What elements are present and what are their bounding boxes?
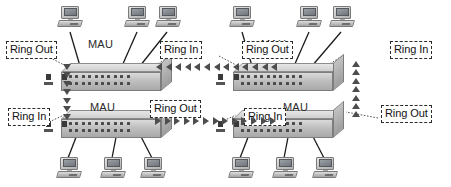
mau-port-row-lower — [69, 129, 130, 132]
ring-arrow-right — [165, 117, 171, 125]
mau-port-row-lower — [69, 82, 130, 85]
monitor-screen — [64, 8, 77, 16]
workstation-icon — [100, 157, 126, 181]
mau-status-led — [216, 129, 225, 132]
monitor-screen — [236, 8, 249, 16]
ring-arrow-left — [156, 63, 162, 71]
monitor-screen — [131, 8, 144, 16]
ring-arrow-right — [193, 117, 199, 125]
label-ring-in-bottom-left: Ring In — [8, 108, 50, 126]
label-ring-out-top-right: Ring Out — [242, 41, 293, 59]
workstation-icon — [228, 157, 254, 181]
monitor-screen — [303, 8, 316, 16]
disk-drive — [241, 174, 250, 176]
mau-title-bottom-right: MAU — [283, 101, 308, 113]
mau-ring-in-port[interactable] — [46, 74, 51, 80]
ring-link-top — [156, 63, 277, 71]
ring-arrow-right — [261, 117, 267, 125]
workstation-icon — [140, 157, 166, 181]
mau-status-led — [44, 129, 53, 132]
ring-arrow-left — [204, 63, 210, 71]
monitor-screen — [235, 159, 248, 167]
workstation-icon — [155, 6, 181, 30]
ring-arrow-left — [242, 63, 248, 71]
workstation-icon — [124, 6, 150, 30]
mau-ring-in-port[interactable] — [62, 121, 67, 127]
mau-side-face — [161, 54, 172, 91]
ring-arrow-up — [352, 69, 360, 75]
ring-arrow-right — [184, 117, 190, 125]
ring-arrow-right — [270, 117, 276, 125]
ring-arrow-up — [352, 61, 360, 67]
ring-arrow-up — [352, 78, 360, 84]
mau-port-row-upper — [69, 75, 130, 78]
label-ring-out-bottom-left: Ring Out — [150, 100, 201, 118]
workstation-icon — [312, 157, 338, 181]
monitor-screen — [336, 8, 349, 16]
mau-side-face — [333, 101, 344, 138]
workstation-icon — [272, 157, 298, 181]
mau-ring-in-port[interactable] — [218, 74, 223, 80]
monitor-screen — [147, 159, 160, 167]
ring-link-left — [63, 64, 71, 120]
workstation-icon — [296, 6, 322, 30]
label-ring-out-top-left: Ring Out — [6, 41, 57, 59]
ring-arrow-down — [63, 72, 71, 78]
ring-arrow-down — [63, 98, 71, 104]
ring-arrow-right — [213, 117, 219, 125]
mau-ring-out-port[interactable] — [234, 74, 239, 80]
workstation-icon — [329, 6, 355, 30]
ring-arrow-right — [222, 117, 228, 125]
disk-drive — [309, 23, 318, 25]
ring-arrow-right — [174, 117, 180, 125]
ring-arrow-left — [214, 63, 220, 71]
ring-arrow-left — [223, 63, 229, 71]
ring-arrow-down — [63, 81, 71, 87]
disk-drive — [342, 23, 351, 25]
monitor-screen — [162, 8, 175, 16]
disk-drive — [153, 174, 162, 176]
mau-title-top-left: MAU — [88, 38, 113, 50]
mau-port-row-upper — [69, 122, 130, 125]
ring-arrow-down — [63, 114, 71, 120]
ring-arrow-up — [352, 95, 360, 101]
mau-top-face — [61, 63, 170, 72]
mau-port-row-upper — [241, 75, 302, 78]
mau-status-led — [216, 82, 225, 85]
disk-drive — [285, 174, 294, 176]
ring-arrow-left — [262, 63, 268, 71]
ring-arrow-left — [233, 63, 239, 71]
disk-drive — [69, 174, 78, 176]
ring-arrow-right — [241, 117, 247, 125]
mau-side-face — [333, 54, 344, 91]
disk-drive — [325, 174, 334, 176]
workstation-icon — [56, 157, 82, 181]
ring-arrow-right — [155, 117, 161, 125]
ring-arrow-up — [352, 103, 360, 109]
workstation-icon — [57, 6, 83, 30]
ring-arrow-right — [232, 117, 238, 125]
ring-arrow-left — [185, 63, 191, 71]
monitor-screen — [63, 159, 76, 167]
ring-arrow-left — [252, 63, 258, 71]
ring-arrow-right — [251, 117, 257, 125]
ring-arrow-left — [166, 63, 172, 71]
label-ring-in-top-left: Ring In — [160, 41, 202, 59]
disk-drive — [137, 23, 146, 25]
ring-arrow-up — [352, 86, 360, 92]
ring-arrow-down — [63, 106, 71, 112]
disk-drive — [242, 23, 251, 25]
ring-link-bottom — [155, 117, 276, 125]
label-ring-out-bottom-right: Ring Out — [381, 105, 432, 123]
ring-arrow-down — [63, 64, 71, 70]
label-ring-in-top-right: Ring In — [390, 41, 432, 59]
disk-drive — [168, 23, 177, 25]
mau-port-row-lower — [241, 82, 302, 85]
ring-arrow-left — [271, 63, 277, 71]
mau-port-row-lower — [241, 129, 302, 132]
monitor-screen — [279, 159, 292, 167]
disk-drive — [113, 174, 122, 176]
ring-link-right — [352, 61, 360, 117]
disk-drive — [70, 23, 79, 25]
ring-arrow-left — [175, 63, 181, 71]
